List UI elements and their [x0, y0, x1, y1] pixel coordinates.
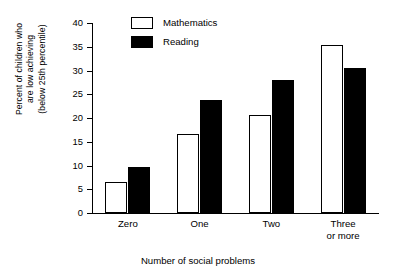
x-axis-title: Number of social problems: [0, 255, 396, 266]
bar-mathematics-three-or-more: [321, 45, 343, 213]
y-axis-title: Percent of children who are low achievin…: [9, 0, 53, 162]
y-tick-label-30: 30: [57, 66, 83, 75]
bar-mathematics-zero: [105, 182, 127, 213]
legend-label: Mathematics: [163, 18, 217, 28]
y-axis-title-line-2: are low achieving: [25, 35, 36, 103]
chart-legend: MathematicsReading: [131, 16, 217, 54]
open-square-swatch: [131, 17, 153, 29]
x-tick-label-line-1: Three: [303, 218, 383, 230]
y-tick-label-5: 5: [57, 184, 83, 193]
bar-reading-two: [272, 80, 294, 213]
x-tick-label-zero: Zero: [88, 218, 168, 230]
bar-reading-zero: [128, 167, 150, 213]
bar-reading-one: [200, 100, 222, 213]
y-tick-label-10: 10: [57, 161, 83, 170]
legend-item-reading: Reading: [131, 35, 217, 49]
filled-square-swatch: [131, 36, 153, 48]
x-tick-label-two: Two: [231, 218, 311, 230]
x-tick-label-line-1: Two: [231, 218, 311, 230]
bar-mathematics-two: [249, 115, 271, 213]
x-tick-label-line-2: or more: [303, 230, 383, 242]
y-axis-title-line-3: (below 25th percentile): [36, 24, 47, 113]
x-tick-label-three-or-more: Threeor more: [303, 218, 383, 241]
y-tick-label-35: 35: [57, 42, 83, 51]
y-tick-label-15: 15: [57, 137, 83, 146]
x-tick-label-one: One: [160, 218, 240, 230]
bar-reading-three-or-more: [344, 68, 366, 213]
y-tick-0: [87, 213, 92, 214]
y-tick-label-0: 0: [57, 208, 83, 217]
x-tick-label-line-1: One: [160, 218, 240, 230]
y-tick-label-40: 40: [57, 18, 83, 27]
legend-item-mathematics: Mathematics: [131, 16, 217, 30]
x-tick-label-line-1: Zero: [88, 218, 168, 230]
y-tick-label-25: 25: [57, 89, 83, 98]
bar-chart: Percent of children who are low achievin…: [0, 0, 396, 278]
x-axis-line: [92, 213, 379, 214]
y-axis-title-line-1: Percent of children who: [13, 23, 24, 115]
legend-label: Reading: [163, 37, 199, 47]
bar-mathematics-one: [177, 134, 199, 213]
y-tick-label-20: 20: [57, 113, 83, 122]
